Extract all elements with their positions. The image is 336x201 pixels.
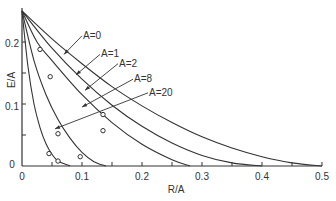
annotation-label: A=8 bbox=[134, 73, 153, 84]
x-tick-label-0: 0 bbox=[19, 171, 25, 182]
annotation-label: A=20 bbox=[149, 87, 173, 98]
series-line-a-1 bbox=[22, 11, 262, 166]
data-marker bbox=[101, 112, 105, 116]
data-marker bbox=[48, 75, 52, 79]
data-markers bbox=[38, 47, 105, 163]
series-line-a-20 bbox=[22, 11, 70, 166]
annotation-label: A=2 bbox=[119, 58, 138, 69]
data-marker bbox=[56, 132, 60, 136]
y-origin-label: 0 bbox=[9, 159, 15, 170]
data-marker bbox=[101, 128, 105, 132]
annotation-label: A=1 bbox=[101, 48, 120, 59]
x-tick-label-0.2: 0.2 bbox=[135, 171, 149, 182]
x-tick-label-0.3: 0.3 bbox=[195, 171, 209, 182]
data-marker bbox=[38, 47, 42, 51]
x-tick-label-0.5: 0.5 bbox=[315, 171, 329, 182]
arrowhead-icon bbox=[55, 125, 60, 128]
y-tick-label-0.2: 0.2 bbox=[5, 38, 19, 49]
annotation-label: A=0 bbox=[83, 30, 102, 41]
x-tick-label-0.4: 0.4 bbox=[255, 171, 269, 182]
x-tick-label-0.1: 0.1 bbox=[75, 171, 89, 182]
y-tick-label-0.1: 0.1 bbox=[5, 101, 19, 112]
y-axis-label: E/A bbox=[6, 72, 17, 88]
x-axis-label: R/A bbox=[168, 184, 185, 195]
line-chart: A=0A=1A=2A=8A=20 0 0.1 0.2 E/A 0 0.1 0.2… bbox=[0, 0, 336, 201]
annotation-leader-line bbox=[85, 64, 118, 91]
axis-ticks bbox=[22, 42, 322, 166]
annotation-leader-line bbox=[55, 93, 148, 129]
data-marker bbox=[78, 155, 82, 159]
arrowhead-icon bbox=[82, 103, 87, 107]
data-marker bbox=[47, 151, 51, 155]
data-marker bbox=[56, 159, 60, 163]
